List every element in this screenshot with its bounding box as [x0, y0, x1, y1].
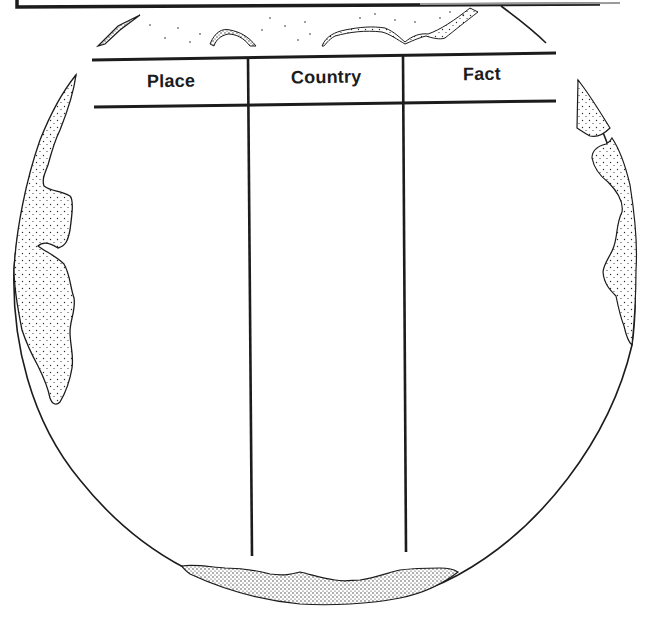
landmass-top	[98, 8, 478, 46]
landmass-bottom	[182, 565, 458, 604]
country-column-area	[254, 110, 402, 550]
column-header-fact: Fact	[463, 64, 501, 86]
column-header-place: Place	[147, 71, 195, 93]
landmass-right	[577, 80, 637, 345]
landmass-left	[14, 75, 76, 404]
place-column-area	[96, 112, 246, 552]
fact-column-area	[409, 106, 555, 546]
table-top-rule	[92, 53, 556, 60]
worksheet-page: Place Country Fact	[0, 0, 651, 624]
column-divider-1	[248, 58, 252, 556]
column-divider-2	[403, 56, 406, 552]
top-frame-border	[17, 0, 620, 7]
column-header-country: Country	[291, 67, 362, 89]
